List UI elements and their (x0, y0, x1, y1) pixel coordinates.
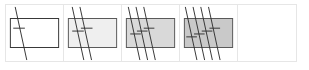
rectangle-with-three-lines-icon (122, 5, 179, 61)
cell-step-1[interactable] (6, 5, 64, 61)
cell-step-2[interactable] (64, 5, 122, 61)
rectangle-with-two-lines-icon (64, 5, 121, 61)
icon-sequence-strip (5, 4, 297, 62)
rectangle-with-four-lines-icon (180, 5, 237, 61)
cell-step-3[interactable] (122, 5, 180, 61)
cell-step-4[interactable] (180, 5, 238, 61)
cell-step-5-empty[interactable] (238, 5, 296, 61)
rectangle-with-one-line-icon (6, 5, 63, 61)
